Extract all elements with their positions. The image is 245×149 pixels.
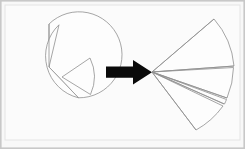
figure-container: Pie chart decomposed into separated sect… bbox=[0, 0, 245, 149]
diagram-canvas bbox=[0, 0, 245, 149]
